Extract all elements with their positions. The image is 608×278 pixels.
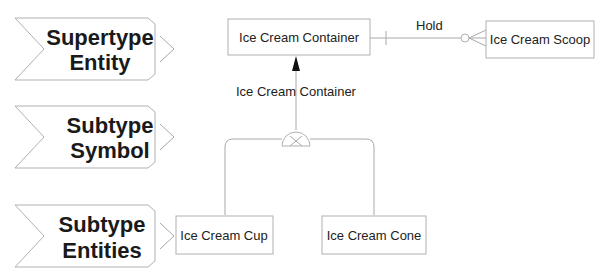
- relationship-label: Hold: [416, 18, 443, 33]
- legend-supertype-entity: Supertype Entity: [15, 18, 174, 80]
- legend-label-line1: Subtype: [67, 113, 154, 138]
- subtype-symbol: [225, 132, 374, 215]
- er-diagram: Supertype Entity Subtype Symbol Subtype …: [0, 0, 608, 278]
- arrowhead-icon: [292, 56, 300, 71]
- legend-label-line1: Supertype: [46, 25, 154, 50]
- inheritance-connector: Ice Cream Container: [236, 56, 357, 130]
- entity-ice-cream-container[interactable]: Ice Cream Container: [228, 19, 370, 55]
- relationship-hold: Hold: [370, 18, 486, 46]
- discriminator-label: Ice Cream Container: [236, 84, 357, 99]
- legend-label-line1: Subtype: [59, 212, 146, 237]
- legend-label-line2: Symbol: [70, 138, 149, 163]
- entity-ice-cream-cone[interactable]: Ice Cream Cone: [322, 216, 426, 254]
- legend-label-line2: Entity: [69, 50, 131, 75]
- legend-label-line2: Entities: [62, 238, 141, 263]
- legend-subtype-symbol: Subtype Symbol: [15, 106, 174, 168]
- entity-label: Ice Cream Cup: [180, 228, 267, 243]
- entity-label: Ice Cream Cone: [327, 228, 422, 243]
- entity-ice-cream-cup[interactable]: Ice Cream Cup: [176, 216, 273, 254]
- entity-label: Ice Cream Container: [239, 30, 360, 45]
- legend-subtype-entities: Subtype Entities: [15, 205, 174, 267]
- entity-label: Ice Cream Scoop: [490, 32, 590, 47]
- entity-ice-cream-scoop[interactable]: Ice Cream Scoop: [486, 21, 594, 58]
